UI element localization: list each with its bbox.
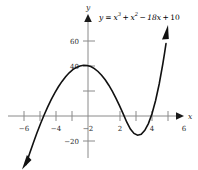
- cubic-curve: [26, 44, 166, 165]
- x-tick-label-neg2: −2: [83, 125, 93, 133]
- equation-lhs: y: [99, 13, 103, 22]
- x-tick-label-2: 2: [118, 125, 122, 133]
- equation-op3: +: [163, 13, 169, 22]
- equation-op2: −: [139, 13, 145, 22]
- x-tick-label-neg6: −6: [19, 125, 30, 133]
- equation-term2-exponent: 2: [135, 11, 138, 17]
- y-tick-label-60: 60: [70, 38, 79, 46]
- x-tick-label-4: 4: [150, 125, 155, 133]
- curve-arrowhead-right-up: [162, 25, 169, 40]
- y-axis-arrowhead: [84, 14, 92, 22]
- graph-figure: −6 −4 −2 2 4 6 60 40 −20 x y y=x3+x2−18x…: [0, 0, 198, 170]
- x-axis-arrowhead: [176, 112, 184, 120]
- curve-arrowhead-left-down: [22, 155, 32, 170]
- x-tick-label-6: 6: [182, 125, 187, 133]
- equation-term1-exponent: 3: [118, 11, 121, 17]
- equation-term3: 18x: [147, 13, 161, 22]
- equation-equals: =: [105, 13, 111, 22]
- equation-term4: 10: [170, 13, 180, 22]
- cubic-function-plot: −6 −4 −2 2 4 6 60 40 −20 x y: [0, 0, 198, 170]
- x-tick-label-neg4: −4: [51, 125, 62, 133]
- y-tick-label-neg20: −20: [64, 138, 79, 146]
- x-axis-label: x: [188, 112, 193, 121]
- equation-annotation: y=x3+x2−18x+10: [99, 11, 180, 22]
- equation-op1: +: [123, 13, 129, 22]
- y-axis-label: y: [85, 3, 91, 12]
